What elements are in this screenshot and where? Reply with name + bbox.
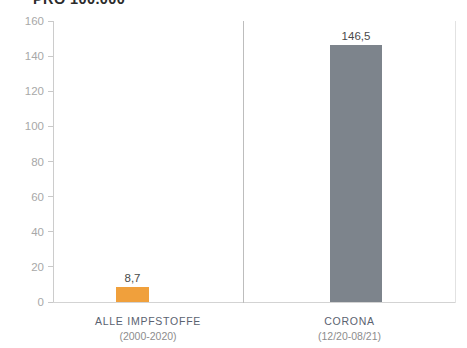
y-axis-tick-mark	[48, 161, 53, 162]
y-axis-tick-mark	[48, 56, 53, 57]
category-label-corona: CORONA (12/20-08/21)	[244, 314, 455, 344]
chart-title: PRO 100.000	[33, 0, 125, 7]
bar-corona: 146,5	[330, 45, 382, 302]
category-group-divider	[243, 21, 244, 303]
x-axis-line	[53, 302, 456, 303]
y-axis-tick-mark	[48, 302, 53, 303]
y-axis-tick-label: 0	[38, 294, 44, 310]
bar-value-corona: 146,5	[342, 29, 371, 43]
y-axis-tick-label: 20	[31, 259, 44, 275]
y-axis-tick-mark	[48, 21, 53, 22]
y-axis-tick-mark	[48, 126, 53, 127]
y-axis-tick-label: 120	[25, 83, 44, 99]
y-axis-tick-mark	[48, 266, 53, 267]
chart-screenshot: PRO 100.000 020406080100120140160 8,7 14…	[0, 0, 467, 348]
y-axis-tick-mark	[48, 196, 53, 197]
y-axis-tick-label: 60	[31, 189, 44, 205]
category-name-corona: CORONA	[244, 314, 455, 329]
y-axis-tick-label: 40	[31, 224, 44, 240]
category-label-alle-impfstoffe: ALLE IMPFSTOFFE (2000-2020)	[53, 314, 243, 344]
y-axis-tick-label: 100	[25, 118, 44, 134]
y-axis-tick-label: 80	[31, 154, 44, 170]
category-period-alle-impfstoffe: (2000-2020)	[53, 329, 243, 344]
bar-alle-impfstoffe: 8,7	[116, 287, 149, 302]
y-axis-tick-label: 160	[25, 13, 44, 29]
y-axis-tick-label: 140	[25, 48, 44, 64]
category-period-corona: (12/20-08/21)	[244, 329, 455, 344]
bar-value-alle-impfstoffe: 8,7	[125, 271, 141, 285]
y-axis-tick-mark	[48, 231, 53, 232]
y-axis-tick-mark	[48, 91, 53, 92]
plot-right-border	[455, 21, 456, 303]
y-axis-line	[53, 21, 54, 303]
category-name-alle-impfstoffe: ALLE IMPFSTOFFE	[53, 314, 243, 329]
